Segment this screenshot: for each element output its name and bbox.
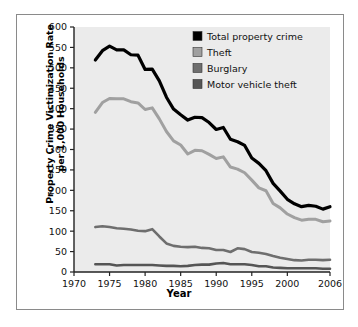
- legend-label: Motor vehicle theft: [207, 79, 297, 90]
- x-axis-label: Year: [0, 288, 358, 299]
- y-axis-label: Property Crime Victimization Rate per 1,…: [44, 24, 66, 204]
- y-axis-label-line2: per 1,000 Households: [55, 57, 66, 172]
- y-axis-label-line1: Property Crime Victimization Rate: [44, 24, 55, 203]
- legend-label: Total property crime: [206, 31, 303, 42]
- legend-label: Theft: [206, 47, 232, 58]
- y-tick-label: 100: [49, 226, 67, 237]
- y-tick-label: 150: [49, 205, 67, 216]
- chart-figure: 6005505004504003503002502001501005001970…: [0, 0, 358, 327]
- legend-label: Burglary: [207, 63, 248, 74]
- y-tick-label: 50: [55, 246, 67, 257]
- legend-swatch: [193, 80, 202, 89]
- legend-swatch: [193, 48, 202, 57]
- legend-swatch: [193, 32, 202, 41]
- legend-swatch: [193, 64, 202, 73]
- y-tick-label: 0: [61, 266, 67, 277]
- chart-frame: 6005505004504003503002502001501005001970…: [16, 14, 344, 310]
